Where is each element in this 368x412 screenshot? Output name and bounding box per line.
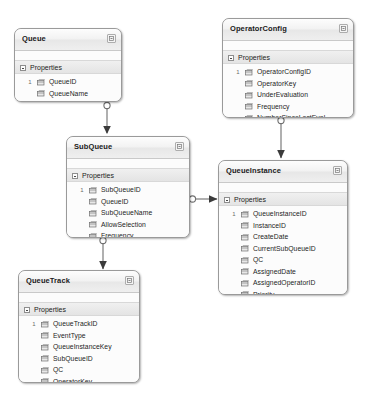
entity-queue-spacer <box>15 51 121 60</box>
property-name: EventType <box>53 332 86 339</box>
property-name: Frequency <box>257 103 290 110</box>
section-label: Properties <box>34 306 66 313</box>
property-row[interactable]: Priority <box>219 289 347 296</box>
property-name: QueueInstanceID <box>253 210 307 217</box>
property-row[interactable]: SubQueueName <box>67 207 189 219</box>
field-icon <box>245 103 253 110</box>
relationship-subqueue-queuetrack[interactable] <box>99 237 107 269</box>
section-toggle-icon[interactable] <box>224 197 230 203</box>
property-row[interactable]: 1 OperatorConfigID <box>223 66 353 78</box>
property-row[interactable]: OperatorKey <box>19 376 139 384</box>
collapse-icon[interactable] <box>125 276 134 285</box>
collapse-icon[interactable] <box>339 24 348 33</box>
section-toggle-icon[interactable] <box>24 307 30 313</box>
property-name: NumberSinceLastEval <box>257 114 325 118</box>
entity-queuetrack-property-list: 1 QueueTrackID EventType QueueInstanceKe… <box>19 316 139 383</box>
entity-operatorconfig-properties-section[interactable]: Properties <box>223 50 353 64</box>
entity-queuetrack-properties-section[interactable]: Properties <box>19 302 139 316</box>
entity-queue-properties-section[interactable]: Properties <box>15 60 121 74</box>
entity-queuetrack-header[interactable]: QueueTrack <box>19 271 139 293</box>
entity-queue[interactable]: Queue Properties 1 QueueID QueueName Sup… <box>14 28 122 102</box>
property-name: QC <box>53 366 63 373</box>
field-icon <box>241 291 249 295</box>
property-row[interactable]: Frequency <box>223 101 353 113</box>
primary-key-marker: 1 <box>28 78 32 86</box>
field-icon <box>241 211 249 218</box>
property-row[interactable]: CreateDate <box>219 231 347 243</box>
property-row[interactable]: Frequency <box>67 230 189 238</box>
property-row[interactable]: EventType <box>19 330 139 342</box>
property-row[interactable]: QueueName <box>15 88 121 100</box>
property-row[interactable]: SubQueueID <box>19 353 139 365</box>
property-row[interactable]: UnderEvaluation <box>223 89 353 101</box>
entity-queueinstance-property-list: 1 QueueInstanceID InstanceID CreateDate … <box>219 206 347 295</box>
property-row[interactable]: QC <box>19 364 139 376</box>
collapse-icon[interactable] <box>175 142 184 151</box>
field-icon <box>41 378 49 383</box>
property-row[interactable]: InstanceID <box>219 220 347 232</box>
property-name: QueueTrackID <box>53 320 98 327</box>
entity-subqueue-property-list: 1 SubQueueID QueueID SubQueueName AllowS… <box>67 182 189 238</box>
section-toggle-icon[interactable] <box>20 65 26 71</box>
entity-subqueue-properties-section[interactable]: Properties <box>67 168 189 182</box>
entity-queueinstance-properties-section[interactable]: Properties <box>219 192 347 206</box>
property-name: SubQueueName <box>101 209 152 216</box>
section-label: Properties <box>238 54 270 61</box>
entity-queueinstance[interactable]: QueueInstance Properties 1 QueueInstance… <box>218 160 348 295</box>
field-icon <box>241 268 249 275</box>
property-row[interactable]: OperatorKey <box>223 78 353 90</box>
relationship-operatorconfig-queueinstance[interactable] <box>277 117 285 158</box>
section-toggle-icon[interactable] <box>228 55 234 61</box>
property-row[interactable]: AssignedOperatorID <box>219 277 347 289</box>
property-name: OperatorConfigID <box>257 68 311 75</box>
field-icon <box>37 79 45 86</box>
property-row[interactable]: QC <box>219 254 347 266</box>
entity-queueinstance-header[interactable]: QueueInstance <box>219 161 347 183</box>
property-row[interactable]: SupportsQC <box>15 99 121 102</box>
property-name: QueueID <box>101 198 129 205</box>
property-name: SubQueueID <box>101 186 141 193</box>
property-row[interactable]: 1 QueueInstanceID <box>219 208 347 220</box>
property-name: UnderEvaluation <box>257 91 308 98</box>
field-icon <box>41 367 49 374</box>
field-icon <box>41 332 49 339</box>
entity-queuetrack[interactable]: QueueTrack Properties 1 QueueTrackID Eve… <box>18 270 140 383</box>
entity-operatorconfig-property-list: 1 OperatorConfigID OperatorKey UnderEval… <box>223 64 353 118</box>
property-row[interactable]: 1 SubQueueID <box>67 184 189 196</box>
entity-subqueue-header[interactable]: SubQueue <box>67 137 189 159</box>
section-label: Properties <box>30 64 62 71</box>
field-icon <box>41 355 49 362</box>
property-row[interactable]: AllowSelection <box>67 219 189 231</box>
entity-operatorconfig[interactable]: OperatorConfig Properties 1 OperatorConf… <box>222 18 354 118</box>
property-row[interactable]: NumberSinceLastEval <box>223 112 353 118</box>
collapse-icon[interactable] <box>333 166 342 175</box>
property-row[interactable]: QueueID <box>67 196 189 208</box>
property-name: QueueID <box>49 78 77 85</box>
section-toggle-icon[interactable] <box>72 173 78 179</box>
collapse-icon[interactable] <box>107 34 116 43</box>
field-icon <box>37 90 45 97</box>
section-label: Properties <box>82 172 114 179</box>
relationship-queue-subqueue[interactable] <box>103 102 111 134</box>
property-row[interactable]: CurrentSubQueueID <box>219 243 347 255</box>
property-row[interactable]: 1 QueueID <box>15 76 121 88</box>
primary-key-marker: 1 <box>80 186 84 194</box>
entity-operatorconfig-spacer <box>223 41 353 50</box>
primary-key-marker: 1 <box>232 210 236 218</box>
property-name: OperatorKey <box>53 378 92 383</box>
relationship-subqueue-queueinstance[interactable] <box>189 195 217 203</box>
property-row[interactable]: AssignedDate <box>219 266 347 278</box>
property-name: AssignedOperatorID <box>253 279 315 286</box>
field-icon <box>241 234 249 241</box>
property-row[interactable]: QueueInstanceKey <box>19 341 139 353</box>
diagram-canvas[interactable]: Queue Properties 1 QueueID QueueName Sup… <box>0 0 368 412</box>
entity-operatorconfig-header[interactable]: OperatorConfig <box>223 19 353 41</box>
entity-queue-header[interactable]: Queue <box>15 29 121 51</box>
entity-subqueue[interactable]: SubQueue Properties 1 SubQueueID QueueID… <box>66 136 190 238</box>
property-row[interactable]: 1 QueueTrackID <box>19 318 139 330</box>
entity-queueinstance-title: QueueInstance <box>226 166 281 175</box>
property-name: InstanceID <box>253 222 286 229</box>
property-name: QC <box>253 256 263 263</box>
field-icon <box>89 233 97 239</box>
field-icon <box>41 344 49 351</box>
